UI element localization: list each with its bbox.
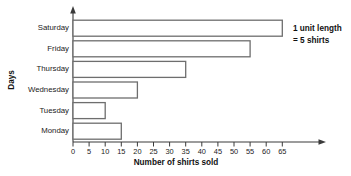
x-tick-label: 55: [246, 147, 254, 156]
x-tick-label: 25: [149, 147, 157, 156]
category-label-thursday: Thursday: [36, 64, 69, 73]
category-label-tuesday: Tuesday: [39, 106, 69, 115]
bars-group: [73, 20, 282, 139]
x-tick-label: 65: [278, 147, 286, 156]
category-label-wednesday: Wednesday: [28, 85, 69, 94]
x-tick-label: 10: [101, 147, 109, 156]
x-tick-label: 5: [87, 147, 91, 156]
x-axis-tick-marks: [73, 142, 282, 147]
x-axis-arrowhead: [319, 139, 327, 145]
bar-thursday: [73, 61, 186, 77]
x-tick-label: 50: [230, 147, 238, 156]
y-axis-category-labels: Saturday Friday Thursday Wednesday Tuesd…: [28, 23, 69, 135]
bar-chart-shirts-sold: 0 5 10 15 20 25 30 35 40 45 50 55 60 65: [0, 0, 351, 176]
y-axis-arrowhead: [70, 6, 76, 14]
scale-annotation-line-2: = 5 shirts: [293, 36, 330, 45]
y-axis-title: Days: [7, 70, 16, 90]
bar-tuesday: [73, 103, 105, 119]
category-label-friday: Friday: [47, 44, 69, 53]
x-tick-label: 40: [198, 147, 206, 156]
x-tick-label: 20: [133, 147, 141, 156]
x-axis: [73, 139, 326, 145]
x-axis-tick-labels: 0 5 10 15 20 25 30 35 40 45 50 55 60 65: [71, 147, 286, 156]
x-tick-label: 60: [262, 147, 270, 156]
x-axis-title: Number of shirts sold: [134, 158, 219, 167]
bar-friday: [73, 41, 250, 57]
chart-canvas: 0 5 10 15 20 25 30 35 40 45 50 55 60 65: [0, 0, 351, 176]
x-tick-label: 0: [71, 147, 75, 156]
x-tick-label: 30: [165, 147, 173, 156]
scale-annotation-line-1: 1 unit length: [293, 24, 342, 33]
bar-wednesday: [73, 82, 137, 98]
bar-monday: [73, 123, 121, 139]
x-tick-label: 35: [182, 147, 190, 156]
x-tick-label: 45: [214, 147, 222, 156]
x-tick-label: 15: [117, 147, 125, 156]
category-label-monday: Monday: [41, 126, 69, 135]
bar-saturday: [73, 20, 282, 36]
scale-annotation: 1 unit length = 5 shirts: [293, 24, 342, 45]
category-label-saturday: Saturday: [38, 23, 69, 32]
